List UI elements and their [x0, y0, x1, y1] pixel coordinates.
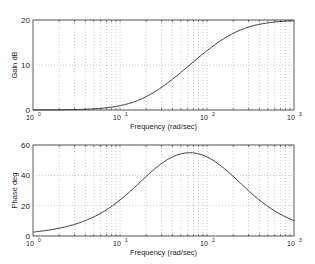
x-tick-label: 10	[200, 240, 208, 247]
x-tick-exponent: 0	[38, 111, 41, 117]
data-line	[33, 153, 294, 232]
x-tick-exponent: 3	[299, 111, 302, 117]
x-tick-exponent: 2	[212, 237, 215, 243]
bode-figure: 01020100101102103Frequency (rad/sec)Gain…	[0, 0, 315, 264]
y-tick-label: 40	[21, 171, 30, 180]
x-tick-exponent: 0	[38, 237, 41, 243]
x-tick-label: 10	[113, 114, 121, 121]
x-tick-exponent: 1	[125, 237, 128, 243]
x-tick-label: 10	[26, 114, 34, 121]
x-tick-label: 10	[287, 240, 295, 247]
y-axis-label: Gain dB	[10, 51, 19, 78]
x-tick-label: 10	[26, 240, 34, 247]
y-tick-label: 20	[21, 16, 30, 25]
phase-plot: 0204060100101102103Frequency (rad/sec)Ph…	[10, 141, 302, 257]
y-tick-label: 10	[21, 61, 30, 70]
data-line	[33, 21, 294, 110]
x-tick-label: 10	[113, 240, 121, 247]
x-axis-label: Frequency (rad/sec)	[130, 122, 198, 131]
x-tick-label: 10	[287, 114, 295, 121]
gain-plot: 01020100101102103Frequency (rad/sec)Gain…	[10, 16, 302, 131]
y-tick-label: 20	[21, 202, 30, 211]
x-tick-exponent: 3	[299, 237, 302, 243]
y-axis-label: Phase deg	[10, 173, 19, 209]
x-tick-exponent: 1	[125, 111, 128, 117]
y-tick-label: 60	[21, 141, 30, 150]
plot-frame	[33, 145, 294, 236]
x-tick-exponent: 2	[212, 111, 215, 117]
x-axis-label: Frequency (rad/sec)	[130, 248, 198, 257]
x-tick-label: 10	[200, 114, 208, 121]
